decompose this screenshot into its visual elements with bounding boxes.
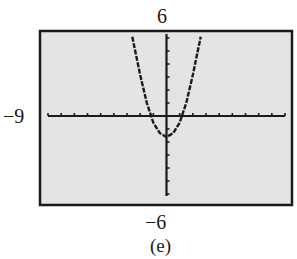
figure-caption: (e): [150, 236, 171, 256]
xmin-label: −9: [3, 106, 24, 126]
ymin-label: −6: [145, 212, 166, 232]
ymax-label: 6: [157, 6, 167, 26]
